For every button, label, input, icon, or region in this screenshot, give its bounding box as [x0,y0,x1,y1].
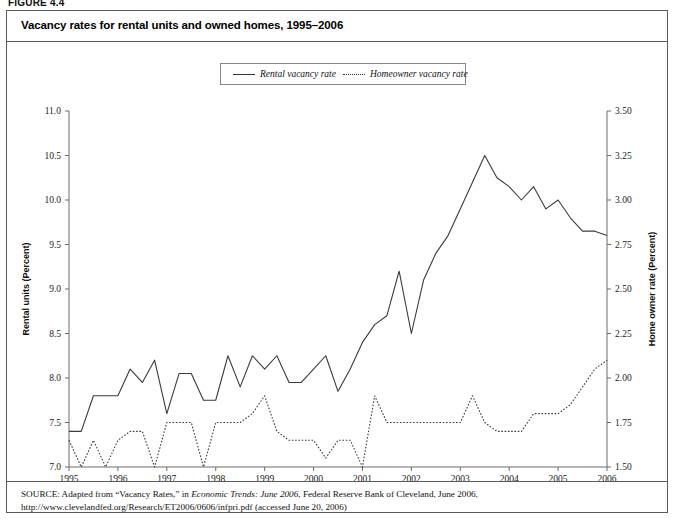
left-axis-tick-label: 9.5 [49,240,61,250]
chart-svg: 7.07.58.08.59.09.510.010.511.01.501.752.… [7,11,669,514]
left-axis-tick-label: 11.0 [45,106,62,116]
x-axis-tick-label: 2002 [402,474,421,484]
figure-container: Vacancy rates for rental units and owned… [6,10,668,513]
x-axis-tick-label: 2004 [500,474,519,484]
x-axis-tick-label: 2001 [353,474,372,484]
right-axis-tick-label: 3.50 [615,106,632,116]
left-axis-tick-label: 8.0 [49,373,61,383]
figure-label: FIGURE 4.4 [8,0,64,8]
right-axis-tick-label: 1.50 [615,462,632,472]
x-axis-tick-label: 1997 [157,474,176,484]
right-axis-title: Home owner rate (Percent) [647,232,657,347]
x-axis-tick-label: 2005 [549,474,568,484]
source-divider [7,481,667,482]
left-axis-tick-label: 10.5 [44,151,61,161]
axis-group: 7.07.58.08.59.09.510.010.511.01.501.752.… [44,106,632,484]
x-axis-tick-label: 1996 [108,474,127,484]
source-publication: Economic Trends: June 2006 [191,489,298,499]
x-axis-tick-label: 1999 [255,474,274,484]
source-note: SOURCE: Adapted from “Vacancy Rates,” in… [21,488,657,513]
axis-titles-group: Rental units (Percent)Home owner rate (P… [21,232,657,347]
left-axis-tick-label: 7.5 [49,418,61,428]
left-axis-title: Rental units (Percent) [21,242,31,335]
chart-plot-area: 7.07.58.08.59.09.510.010.511.01.501.752.… [7,11,669,514]
series-group [69,156,607,468]
right-axis-tick-label: 1.75 [615,418,632,428]
left-axis-tick-label: 10.0 [44,195,61,205]
right-axis-tick-label: 3.25 [615,151,632,161]
x-axis-tick-label: 1995 [60,474,79,484]
series-line-rental-vacancy-rate [69,156,607,432]
left-axis-tick-label: 8.5 [49,329,61,339]
x-axis-tick-label: 1998 [206,474,225,484]
source-text-before: Adapted from “Vacancy Rates,” in [60,489,191,499]
series-line-homeowner-vacancy-rate [69,360,607,467]
right-axis-tick-label: 2.25 [615,329,632,339]
right-axis-tick-label: 3.00 [615,195,632,205]
left-axis-tick-label: 7.0 [49,462,61,472]
x-axis-tick-label: 2000 [304,474,323,484]
x-axis-tick-label: 2006 [598,474,617,484]
left-axis-tick-label: 9.0 [49,284,61,294]
right-axis-tick-label: 2.50 [615,284,632,294]
source-label: SOURCE: [21,489,60,499]
x-axis-tick-label: 2003 [451,474,470,484]
right-axis-tick-label: 2.00 [615,373,632,383]
right-axis-tick-label: 2.75 [615,240,632,250]
